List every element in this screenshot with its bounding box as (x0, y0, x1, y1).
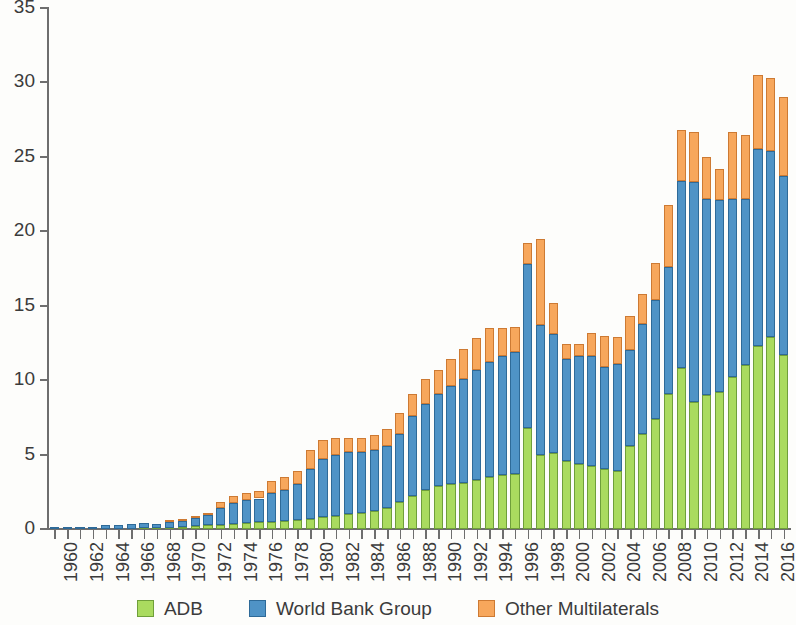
bar-2012 (715, 8, 724, 529)
legend-item-other[interactable]: Other Multilaterals (478, 598, 659, 619)
bar-1989 (421, 8, 430, 529)
bar-segment (613, 364, 622, 471)
x-axis-tick-mark (234, 530, 236, 539)
bar-segment (293, 484, 302, 520)
bar-segment (114, 525, 123, 529)
bar-segment (50, 527, 59, 529)
x-axis-tick-mark (400, 530, 402, 539)
x-axis-tick-label: 1998 (548, 542, 568, 582)
bar-1962 (75, 8, 84, 529)
legend-label: World Bank Group (276, 598, 432, 619)
bar-2011 (702, 8, 711, 529)
bar-2008 (664, 8, 673, 529)
bar-segment (446, 386, 455, 484)
x-axis-tick-label: 2000 (573, 542, 593, 582)
bar-segment (664, 394, 673, 529)
bar-1983 (344, 8, 353, 529)
bar-segment (779, 176, 788, 355)
bar-segment (753, 346, 762, 529)
x-axis-tick-label: 2014 (752, 542, 772, 582)
bar-segment (779, 97, 788, 176)
bar-1971 (191, 8, 200, 529)
x-axis-tick-mark (720, 530, 722, 539)
bar-1992 (459, 8, 468, 529)
bar-1995 (498, 8, 507, 529)
x-axis-tick-mark (425, 530, 427, 539)
x-axis-tick-mark (374, 530, 376, 539)
bar-segment (178, 521, 187, 527)
bar-segment (357, 513, 366, 529)
bar-1976 (254, 8, 263, 529)
bar-segment (689, 132, 698, 183)
bar-segment (382, 508, 391, 529)
bar-segment (254, 499, 263, 523)
x-axis-tick-mark (272, 530, 274, 539)
bar-segment (638, 324, 647, 434)
x-axis-tick-mark (361, 530, 363, 539)
x-axis-tick-mark (182, 530, 184, 539)
bar-segment (472, 480, 481, 529)
x-axis-tick-mark (170, 530, 172, 539)
bar-segment (702, 199, 711, 395)
bar-segment (728, 132, 737, 199)
bar-segment (523, 243, 532, 264)
bar-segment (191, 518, 200, 527)
bar-segment (306, 519, 315, 529)
bar-segment (318, 440, 327, 459)
bar-2007 (651, 8, 660, 529)
bar-segment (408, 416, 417, 496)
x-axis-tick-mark (541, 530, 543, 539)
bar-1965 (114, 8, 123, 529)
bar-segment (459, 379, 468, 483)
bar-segment (651, 300, 660, 419)
y-axis-tick-mark (40, 528, 48, 530)
x-axis-tick-label: 2004 (624, 542, 644, 582)
bar-segment (766, 337, 775, 529)
bar-segment (677, 181, 686, 369)
bar-segment (191, 526, 200, 529)
bar-1996 (510, 8, 519, 529)
bar-segment (549, 453, 558, 529)
bar-2000 (562, 8, 571, 529)
x-axis-tick-mark (451, 530, 453, 539)
x-axis-tick-label: 2006 (650, 542, 670, 582)
bar-2009 (677, 8, 686, 529)
bar-segment (446, 484, 455, 529)
x-axis-tick-label: 1966 (138, 542, 158, 582)
x-axis-tick-mark (259, 530, 261, 539)
x-axis-tick-mark (80, 530, 82, 539)
x-axis-tick-mark (93, 530, 95, 539)
x-axis-tick-mark (528, 530, 530, 539)
bar-segment (370, 450, 379, 511)
y-axis-tick-label: 30 (14, 70, 35, 92)
bar-segment (421, 379, 430, 404)
bar-segment (216, 525, 225, 529)
bar-segment (280, 477, 289, 490)
x-axis-tick-mark (681, 530, 683, 539)
x-axis-tick-mark (502, 530, 504, 539)
bar-segment (715, 392, 724, 529)
bar-segment (523, 428, 532, 529)
x-axis-tick-mark (784, 530, 786, 539)
bar-1993 (472, 8, 481, 529)
bar-segment (331, 438, 340, 454)
x-axis-tick-mark (195, 530, 197, 539)
bar-segment (229, 524, 238, 529)
bar-segment (702, 157, 711, 199)
bar-segment (254, 522, 263, 529)
bar-segment (382, 429, 391, 445)
x-axis-tick-mark (221, 530, 223, 539)
x-axis-tick-mark (553, 530, 555, 539)
legend-item-adb[interactable]: ADB (137, 598, 203, 619)
bar-segment (344, 514, 353, 529)
bar-segment (370, 435, 379, 450)
bar-segment (651, 263, 660, 300)
bar-segment (715, 200, 724, 392)
bar-segment (664, 267, 673, 394)
x-axis-tick-mark (566, 530, 568, 539)
bar-segment (689, 402, 698, 529)
legend-label: Other Multilaterals (505, 598, 659, 619)
legend-item-wbg[interactable]: World Bank Group (249, 598, 432, 619)
bar-1988 (408, 8, 417, 529)
bar-segment (408, 394, 417, 416)
